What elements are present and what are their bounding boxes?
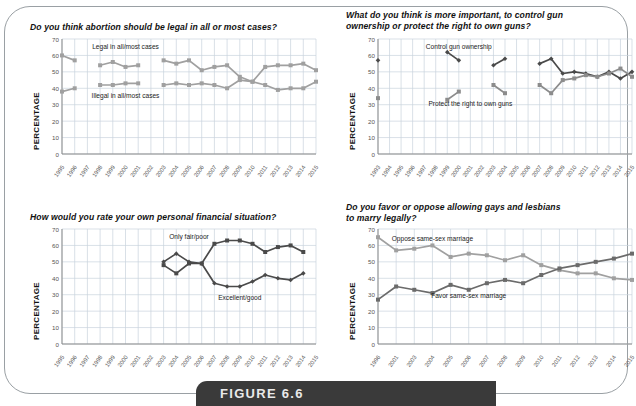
svg-text:20: 20 [52,118,59,125]
svg-text:1997: 1997 [78,354,90,368]
svg-text:Oppose same-sex marriage: Oppose same-sex marriage [392,235,474,243]
svg-text:2000: 2000 [117,164,129,178]
figure-caption-label: FIGURE 6.6 [220,386,304,401]
svg-text:2015: 2015 [623,354,635,368]
chart-title-abortion: Do you think abortion should be legal in… [30,22,300,33]
svg-text:2005: 2005 [180,164,192,178]
svg-text:2001: 2001 [461,164,473,178]
svg-text:2007: 2007 [205,354,217,368]
chart-panel-marriage: Do you favor or oppose allowing gays and… [346,202,636,382]
svg-text:2004: 2004 [167,354,180,369]
svg-text:1998: 1998 [427,164,439,178]
y-axis-label-guns: PERCENTAGE [348,92,357,150]
chart-panel-finance: How would you rate your own personal fin… [30,212,320,382]
svg-text:2013: 2013 [600,164,612,178]
svg-text:2014: 2014 [611,164,624,179]
svg-text:2011: 2011 [256,354,268,368]
svg-text:10: 10 [52,134,59,141]
svg-text:2012: 2012 [269,164,281,178]
svg-text:2003: 2003 [484,164,496,178]
svg-text:60: 60 [368,242,375,249]
svg-text:50: 50 [368,68,375,75]
svg-text:1999: 1999 [104,354,116,368]
svg-text:2014: 2014 [605,354,618,369]
svg-text:40: 40 [52,85,59,92]
svg-text:10: 10 [368,324,375,331]
svg-text:2002: 2002 [473,164,485,178]
svg-text:30: 30 [368,291,375,298]
svg-text:1998: 1998 [91,164,103,178]
svg-text:40: 40 [52,275,59,282]
plot-area-abortion: 0102030405060701995199619971998199920002… [42,36,320,192]
svg-text:0: 0 [56,151,60,158]
svg-text:2012: 2012 [588,164,600,178]
svg-text:2014: 2014 [294,164,307,179]
svg-text:1995: 1995 [53,164,65,178]
svg-text:1996: 1996 [404,164,416,178]
svg-text:2000: 2000 [450,164,462,178]
figure-caption-banner: FIGURE 6.6 [196,381,496,406]
svg-text:Favor same-sex marriage: Favor same-sex marriage [431,292,506,300]
svg-text:2006: 2006 [519,164,531,178]
svg-text:2003: 2003 [405,354,417,368]
svg-text:2003: 2003 [155,354,167,368]
svg-text:2008: 2008 [218,354,230,368]
svg-text:1994: 1994 [381,164,394,179]
svg-text:60: 60 [52,242,59,249]
svg-text:2009: 2009 [231,164,243,178]
svg-text:1998: 1998 [91,354,103,368]
svg-text:2000: 2000 [117,354,129,368]
svg-text:2006: 2006 [193,164,205,178]
svg-text:2013: 2013 [587,354,599,368]
svg-text:10: 10 [368,134,375,141]
svg-text:20: 20 [52,308,59,315]
svg-text:70: 70 [368,36,375,43]
svg-text:2003: 2003 [155,164,167,178]
y-axis-label-finance: PERCENTAGE [32,282,41,340]
chart-title-finance: How would you rate your own personal fin… [30,212,300,223]
plot-area-guns: 0102030405060701993199419951996199719981… [358,36,636,192]
svg-text:1996: 1996 [66,164,78,178]
svg-text:2004: 2004 [423,354,436,369]
svg-text:2008: 2008 [218,164,230,178]
svg-text:2006: 2006 [460,354,472,368]
svg-text:1995: 1995 [392,164,404,178]
chart-svg-marriage: 0102030405060701996200120032004200520062… [358,226,636,382]
svg-text:Excellent/good: Excellent/good [218,294,262,302]
svg-text:2004: 2004 [167,164,180,179]
svg-text:2004: 2004 [496,164,509,179]
svg-text:70: 70 [52,226,59,233]
svg-text:2012: 2012 [269,354,281,368]
plot-area-finance: 0102030405060701995199619971998199920002… [42,226,320,382]
y-axis-label-marriage: PERCENTAGE [348,282,357,340]
svg-text:2011: 2011 [256,164,268,178]
svg-text:60: 60 [368,52,375,59]
y-axis-label-abortion: PERCENTAGE [32,92,41,150]
svg-text:2015: 2015 [307,164,319,178]
svg-text:2001: 2001 [129,164,141,178]
svg-text:2010: 2010 [244,354,256,368]
chart-title-guns: What do you think is more important, to … [346,10,576,31]
svg-text:50: 50 [368,258,375,265]
svg-text:2001: 2001 [387,354,399,368]
svg-text:Protect the right to own guns: Protect the right to own guns [428,100,513,108]
svg-text:2009: 2009 [514,354,526,368]
svg-text:1996: 1996 [369,354,381,368]
svg-text:0: 0 [372,151,376,158]
svg-text:2011: 2011 [577,164,589,178]
svg-text:1993: 1993 [369,164,381,178]
svg-text:2011: 2011 [551,354,563,368]
svg-text:30: 30 [368,101,375,108]
svg-text:2010: 2010 [244,164,256,178]
svg-text:0: 0 [56,341,60,348]
svg-text:30: 30 [52,101,59,108]
chart-svg-finance: 0102030405060701995199619971998199920002… [42,226,320,382]
svg-text:30: 30 [52,291,59,298]
banner-notch [178,393,198,394]
svg-text:60: 60 [52,52,59,59]
svg-text:Control gun ownership: Control gun ownership [426,43,492,51]
svg-text:1999: 1999 [104,164,116,178]
svg-text:2010: 2010 [532,354,544,368]
svg-text:2007: 2007 [205,164,217,178]
chart-panel-guns: What do you think is more important, to … [346,10,636,192]
